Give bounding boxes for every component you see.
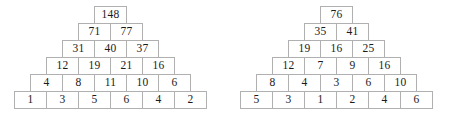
pyramid-cell: 4 xyxy=(142,91,175,109)
pyramid-row: 148 xyxy=(94,6,127,23)
pyramid-cell: 4 xyxy=(288,74,321,92)
pyramid-row: 35 41 xyxy=(304,23,369,40)
pyramid-cell: 6 xyxy=(352,74,385,92)
pyramid-cell: 3 xyxy=(272,91,305,109)
pyramid-cell: 41 xyxy=(336,23,369,41)
pyramid-row: 12 7 9 16 xyxy=(272,57,401,74)
pyramid-row: 71 77 xyxy=(78,23,143,40)
pyramid-row: 19 16 25 xyxy=(288,40,385,57)
pyramid-cell: 37 xyxy=(126,40,159,58)
pyramid-cell: 8 xyxy=(62,74,95,92)
pyramid-cell: 7 xyxy=(304,57,337,75)
pyramid-cell: 12 xyxy=(272,57,305,75)
pyramid-cell: 148 xyxy=(94,6,127,24)
pyramid-row: 4 8 11 10 6 xyxy=(30,74,191,91)
pyramid-cell: 25 xyxy=(352,40,385,58)
pyramid-cell: 71 xyxy=(78,23,111,41)
number-pyramid-right: 76 35 41 19 16 25 12 7 9 16 8 4 3 6 10 5… xyxy=(240,6,433,108)
pyramid-cell: 40 xyxy=(94,40,127,58)
pyramid-cell: 19 xyxy=(78,57,111,75)
pyramid-cell: 35 xyxy=(304,23,337,41)
pyramid-row: 5 3 1 2 4 6 xyxy=(240,91,433,108)
pyramid-cell: 10 xyxy=(384,74,417,92)
pyramid-cell: 6 xyxy=(158,74,191,92)
pyramid-row: 12 19 21 16 xyxy=(46,57,175,74)
pyramid-cell: 11 xyxy=(94,74,127,92)
pyramid-row: 1 3 5 6 4 2 xyxy=(14,91,207,108)
pyramid-row: 76 xyxy=(320,6,353,23)
pyramid-cell: 3 xyxy=(46,91,79,109)
pyramid-cell: 5 xyxy=(240,91,273,109)
number-pyramid-left: 148 71 77 31 40 37 12 19 21 16 4 8 11 10… xyxy=(14,6,207,108)
pyramid-cell: 16 xyxy=(368,57,401,75)
pyramid-cell: 4 xyxy=(30,74,63,92)
pyramid-cell: 9 xyxy=(336,57,369,75)
pyramid-row: 31 40 37 xyxy=(62,40,159,57)
pyramid-cell: 2 xyxy=(174,91,207,109)
pyramid-row: 8 4 3 6 10 xyxy=(256,74,417,91)
pyramid-cell: 16 xyxy=(320,40,353,58)
pyramid-cell: 76 xyxy=(320,6,353,24)
pyramid-cell: 6 xyxy=(400,91,433,109)
pyramid-cell: 4 xyxy=(368,91,401,109)
pyramid-cell: 12 xyxy=(46,57,79,75)
pyramid-cell: 2 xyxy=(336,91,369,109)
pyramid-cell: 1 xyxy=(304,91,337,109)
pyramid-cell: 8 xyxy=(256,74,289,92)
pyramid-cell: 77 xyxy=(110,23,143,41)
pyramid-cell: 3 xyxy=(320,74,353,92)
pyramid-cell: 10 xyxy=(126,74,159,92)
pyramid-cell: 21 xyxy=(110,57,143,75)
pyramid-cell: 1 xyxy=(14,91,47,109)
pyramid-cell: 5 xyxy=(78,91,111,109)
pyramid-cell: 19 xyxy=(288,40,321,58)
figure-canvas: 148 71 77 31 40 37 12 19 21 16 4 8 11 10… xyxy=(0,0,451,119)
pyramid-cell: 16 xyxy=(142,57,175,75)
pyramid-cell: 31 xyxy=(62,40,95,58)
pyramid-cell: 6 xyxy=(110,91,143,109)
